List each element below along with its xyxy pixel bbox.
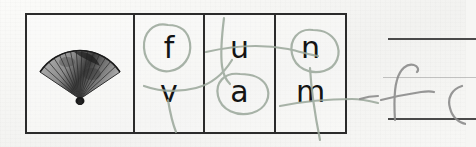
folding-hand-fan-image bbox=[34, 44, 126, 108]
picture-cell-alt: photograph of an open folding hand fan bbox=[27, 15, 28, 16]
letter-option-v[interactable]: v bbox=[135, 77, 203, 107]
letter-choice-cell-3[interactable]: n m bbox=[276, 15, 345, 132]
letter-choice-cell-2[interactable]: u a bbox=[205, 15, 276, 132]
letter-option-u[interactable]: u bbox=[205, 33, 274, 63]
exercise-table: photograph of an open folding hand fan bbox=[25, 13, 347, 134]
letter-option-f[interactable]: f bbox=[135, 33, 203, 63]
letter-option-m[interactable]: m bbox=[276, 77, 345, 107]
picture-cell: photograph of an open folding hand fan bbox=[27, 15, 135, 132]
handwriting-practice-area[interactable]: f bbox=[363, 13, 466, 134]
letter-choice-cell-1[interactable]: f v bbox=[135, 15, 205, 132]
letter-option-a[interactable]: a bbox=[205, 77, 274, 107]
letter-option-n[interactable]: n bbox=[276, 33, 345, 63]
practice-rule-line-top bbox=[388, 38, 476, 40]
practice-letter-label: f bbox=[363, 13, 364, 14]
practice-rule-line-baseline bbox=[388, 118, 476, 120]
practice-rule-line-midline bbox=[383, 77, 476, 78]
